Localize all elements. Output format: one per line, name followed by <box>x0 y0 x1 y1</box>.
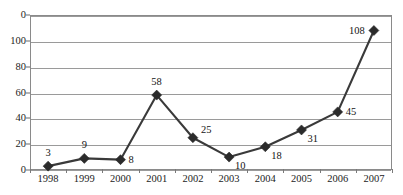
x-tick-label: 1999 <box>74 174 95 185</box>
x-tick-label: 2002 <box>182 174 203 185</box>
data-point-marker <box>369 26 379 36</box>
x-tick-mark <box>211 169 212 173</box>
data-point-label: 10 <box>235 161 246 172</box>
y-tick-label: 100 <box>10 36 26 47</box>
y-tick-label: 20 <box>16 139 27 150</box>
line-chart: 0100806040200 398582510183145108 1998199… <box>0 0 403 195</box>
x-tick-mark <box>356 169 357 173</box>
x-tick-label: 2000 <box>110 174 131 185</box>
series-markers <box>43 26 379 172</box>
data-point-label: 58 <box>151 77 162 88</box>
data-point-label: 18 <box>271 151 282 162</box>
x-tick-mark <box>283 169 284 173</box>
x-tick-label: 2001 <box>146 174 167 185</box>
x-tick-mark <box>102 169 103 173</box>
x-tick-label: 2006 <box>327 174 348 185</box>
data-point-label: 31 <box>308 134 319 145</box>
x-tick-mark <box>247 169 248 173</box>
x-tick-label: 2003 <box>219 174 240 185</box>
x-tick-label: 2004 <box>255 174 276 185</box>
x-tick-mark <box>66 169 67 173</box>
data-point-label: 25 <box>201 125 212 136</box>
series-line <box>48 31 374 167</box>
data-point-marker <box>260 142 270 152</box>
data-point-marker <box>297 125 307 135</box>
y-tick-label: 40 <box>16 113 27 124</box>
data-point-label: 9 <box>82 140 87 151</box>
x-tick-label: 2005 <box>291 174 312 185</box>
data-point-marker <box>79 153 89 163</box>
x-tick-label: 1998 <box>38 174 59 185</box>
data-point-marker <box>333 107 343 117</box>
data-point-marker <box>116 155 126 165</box>
x-tick-mark <box>320 169 321 173</box>
x-tick-mark <box>30 169 31 173</box>
data-point-label: 45 <box>346 107 357 118</box>
y-axis: 0100806040200 <box>0 0 30 195</box>
x-axis: 1998199920002001200220032004200520062007 <box>30 172 392 192</box>
x-tick-mark <box>139 169 140 173</box>
x-tick-mark <box>392 169 393 173</box>
data-point-label: 8 <box>129 155 134 166</box>
data-point-label: 108 <box>349 26 365 37</box>
y-tick-label: 60 <box>16 87 27 98</box>
y-tick-label: 80 <box>16 61 27 72</box>
x-tick-mark <box>175 169 176 173</box>
x-tick-label: 2007 <box>363 174 384 185</box>
data-point-label: 3 <box>46 148 51 159</box>
data-point-marker <box>43 161 53 171</box>
data-point-marker <box>224 152 234 162</box>
